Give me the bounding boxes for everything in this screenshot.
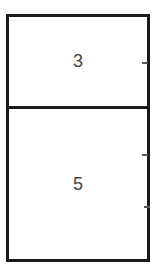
tick-mark [142, 62, 148, 64]
tick-mark [142, 154, 148, 156]
cell-bottom-label: 5 [73, 174, 83, 195]
cell-bottom: 5 [9, 109, 147, 259]
cell-top-label: 3 [73, 51, 83, 72]
cell-top: 3 [9, 17, 147, 106]
stacked-box-diagram: 3 5 [6, 14, 150, 262]
tick-mark [144, 206, 150, 208]
